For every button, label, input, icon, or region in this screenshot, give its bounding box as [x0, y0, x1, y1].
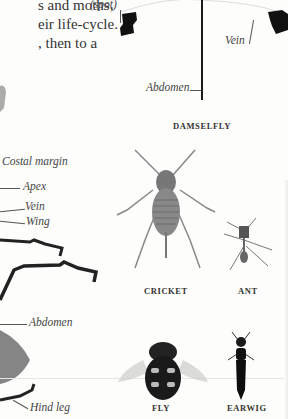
- label-apex: Apex: [23, 180, 46, 192]
- leader-line: [0, 188, 20, 189]
- label-wing: Wing: [26, 215, 50, 227]
- label-vein-top: Vein: [225, 34, 245, 46]
- label-costal-margin: Costal margin: [2, 155, 68, 167]
- cricket-illustration: [115, 150, 225, 270]
- page-edge-shadow: [284, 180, 288, 419]
- caption-ant: ANT: [238, 286, 258, 296]
- caption-earwig: EARWIG: [227, 403, 267, 413]
- label-abdomen-left: Abdomen: [29, 316, 72, 328]
- leader-line: [0, 324, 27, 325]
- caption-cricket: CRICKET: [144, 286, 188, 296]
- label-abdomen-top: Abdomen: [146, 81, 189, 93]
- earwig-illustration: [222, 328, 262, 403]
- fly-illustration: [118, 330, 208, 405]
- caption-damselfly: DAMSELFLY: [173, 121, 231, 131]
- label-vein-left: Vein: [25, 200, 45, 212]
- caption-fly: FLY: [152, 403, 170, 413]
- ant-illustration: [222, 210, 282, 280]
- leader-line: [120, 10, 121, 23]
- label-hind-leg: Hind leg: [30, 401, 70, 413]
- leader-line: [190, 90, 201, 91]
